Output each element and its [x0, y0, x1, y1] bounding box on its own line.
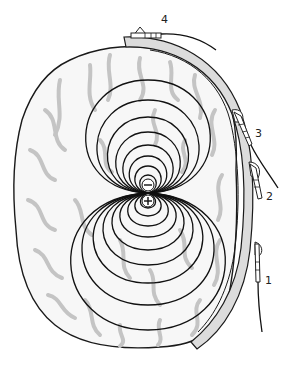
electrode-4-label: 4: [161, 14, 168, 25]
electrode-3-label: 3: [255, 128, 262, 139]
electrode-1-label: 1: [265, 275, 272, 286]
electrode-2-wire: [260, 199, 272, 320]
electrode-1: [255, 242, 262, 332]
electrode-1-body: [255, 244, 260, 282]
electrode-2-label: 2: [266, 191, 273, 202]
electrode-1-wire: [258, 282, 262, 332]
dipole-diagram: [0, 0, 295, 366]
electrode-4-body: [131, 33, 161, 38]
